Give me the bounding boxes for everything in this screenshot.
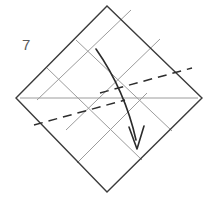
canvas-background: [0, 0, 216, 204]
origami-step-illustration: 7: [0, 0, 216, 204]
step-number-label: 7: [22, 36, 30, 53]
origami-diagram: 7: [0, 0, 216, 204]
